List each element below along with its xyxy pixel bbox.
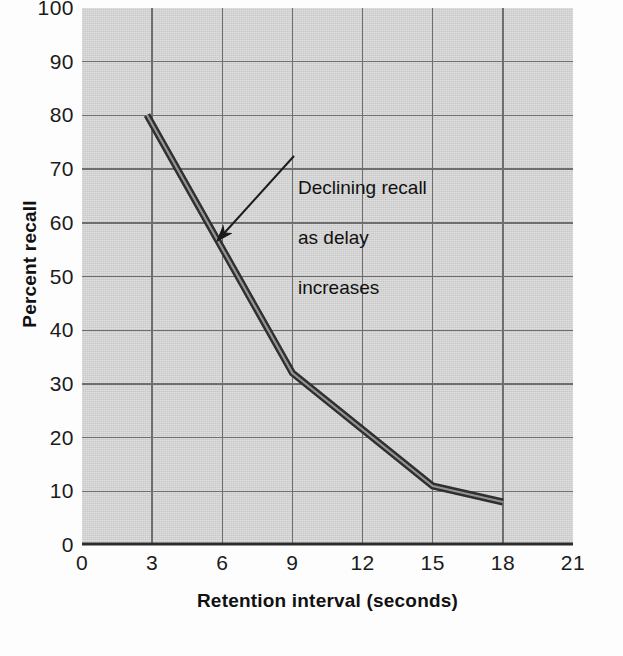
y-axis-title: Percent recall bbox=[19, 174, 41, 354]
x-tick-12: 12 bbox=[333, 551, 393, 575]
annotation-line-2: as delay bbox=[298, 225, 427, 250]
figure-container: Declining recall as delay increases 100 … bbox=[0, 0, 623, 656]
y-tick-80: 80 bbox=[10, 103, 74, 127]
x-tick-15: 15 bbox=[403, 551, 463, 575]
x-tick-0: 0 bbox=[52, 551, 112, 575]
x-axis-title: Retention interval (seconds) bbox=[82, 590, 573, 612]
x-tick-18: 18 bbox=[473, 551, 533, 575]
y-tick-30: 30 bbox=[10, 372, 74, 396]
annotation-line-3: increases bbox=[298, 275, 427, 300]
y-tick-20: 20 bbox=[10, 426, 74, 450]
x-tick-9: 9 bbox=[262, 551, 322, 575]
y-tick-10: 10 bbox=[10, 479, 74, 503]
x-axis-ticks: 0 3 6 9 12 15 18 21 bbox=[82, 551, 573, 583]
x-tick-3: 3 bbox=[122, 551, 182, 575]
y-tick-100: 100 bbox=[10, 0, 74, 20]
chart-annotation: Declining recall as delay increases bbox=[298, 150, 427, 325]
y-tick-90: 90 bbox=[10, 50, 74, 74]
credit-holder: © Cengage Learning bbox=[588, 420, 618, 620]
x-tick-6: 6 bbox=[192, 551, 252, 575]
annotation-line-1: Declining recall bbox=[298, 175, 427, 200]
